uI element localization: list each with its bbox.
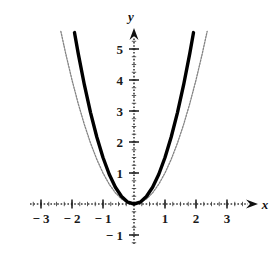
x-tick-label: 2 [193, 211, 200, 226]
x-axis-label: x [261, 197, 269, 212]
x-tick-label: − 3 [32, 211, 50, 226]
y-tick-label: 2 [117, 135, 124, 150]
y-tick-label: − 1 [106, 228, 123, 243]
x-tick-label: − 1 [94, 211, 111, 226]
x-tick-label: − 2 [63, 211, 80, 226]
x-tick-label: 1 [162, 211, 169, 226]
x-tick-label: 3 [224, 211, 231, 226]
coordinate-plane: − 3− 2− 1123 − 112345 x y [0, 0, 279, 261]
y-tick-label: 3 [117, 104, 124, 119]
y-axis-label: y [126, 9, 134, 24]
y-tick-label: 4 [117, 73, 124, 88]
y-tick-label: 5 [117, 42, 124, 57]
graph-figure: − 3− 2− 1123 − 112345 x y [0, 0, 279, 261]
y-tick-label: 1 [117, 166, 124, 181]
